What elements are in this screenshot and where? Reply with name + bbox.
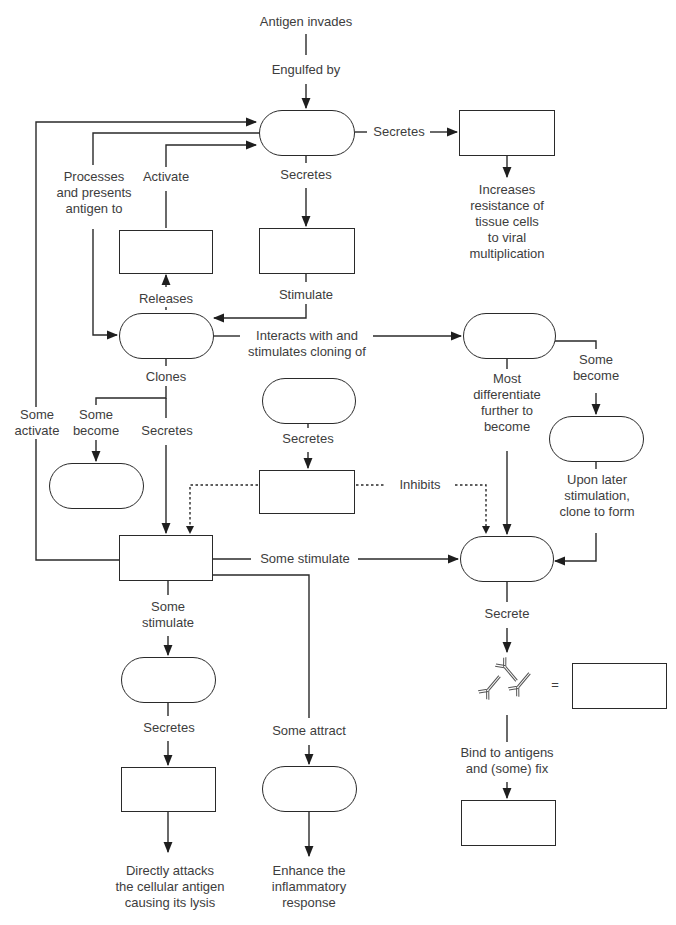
label-secretes-cytotoxic: Secretes xyxy=(138,720,200,736)
label-processes-presents: Processes and presents antigen to xyxy=(48,169,140,217)
b-cell-node[interactable] xyxy=(463,313,556,359)
inhibit-line-right xyxy=(455,485,486,530)
label-some-activate: Some activate xyxy=(10,407,64,439)
label-secretes-right: Secretes xyxy=(368,124,430,140)
label-some-attract: Some attract xyxy=(264,723,354,739)
label-equals: = xyxy=(548,677,562,693)
label-antigen-invades: Antigen invades xyxy=(236,14,376,30)
plasma-cell-node[interactable] xyxy=(460,536,554,582)
label-interacts-with: Interacts with and stimulates cloning of xyxy=(242,328,372,360)
interleukin-1-box[interactable] xyxy=(259,228,355,274)
label-some-stimulate-right: Some stimulate xyxy=(252,551,358,567)
memory-b-cell-node[interactable] xyxy=(549,416,644,462)
antibodies-box[interactable] xyxy=(572,663,667,709)
label-enhance-inflammatory: Enhance the inflammatory response xyxy=(264,863,354,911)
label-some-stimulate-down: Some stimulate xyxy=(138,599,198,631)
label-engulfed-by: Engulfed by xyxy=(256,62,356,78)
helper-t-cell-node[interactable] xyxy=(119,313,214,359)
interferon-box[interactable] xyxy=(459,110,555,156)
inflammatory-cell-node[interactable] xyxy=(262,766,357,812)
label-activate: Activate xyxy=(136,169,196,185)
label-bind-to-antigens: Bind to antigens and (some) fix xyxy=(450,745,564,777)
lymphokine-box[interactable] xyxy=(119,535,213,581)
label-secrete: Secrete xyxy=(477,606,537,622)
inhibit-line-left xyxy=(190,485,258,530)
label-secretes-suppressor: Secretes xyxy=(277,431,339,447)
antibody-icon xyxy=(477,656,534,700)
label-secretes-clones: Secretes xyxy=(136,423,198,439)
cytotoxic-t-cell-node[interactable] xyxy=(121,657,216,703)
perforin-box[interactable] xyxy=(121,767,216,812)
memory-t-cell-node[interactable] xyxy=(49,463,144,509)
label-inhibits: Inhibits xyxy=(387,477,453,493)
label-directly-attacks: Directly attacks the cellular antigen ca… xyxy=(106,863,234,911)
interleukin-2-box[interactable] xyxy=(119,230,213,274)
label-some-become-left: Some become xyxy=(68,407,124,439)
complement-box[interactable] xyxy=(461,800,556,846)
suppressor-t-cell-node[interactable] xyxy=(262,378,356,424)
label-upon-later: Upon later stimulation, clone to form xyxy=(556,472,638,520)
label-some-become-right: Some become xyxy=(566,352,626,384)
label-clones: Clones xyxy=(136,369,196,385)
label-most-differentiate: Most differentiate further to become xyxy=(465,371,549,435)
label-stimulate: Stimulate xyxy=(271,287,341,303)
suppressor-factor-box[interactable] xyxy=(259,470,355,514)
label-releases: Releases xyxy=(131,291,201,307)
macrophage-node[interactable] xyxy=(259,110,355,156)
label-increases-resistance: Increases resistance of tissue cells to … xyxy=(455,182,559,262)
label-secretes-down: Secretes xyxy=(271,167,341,183)
